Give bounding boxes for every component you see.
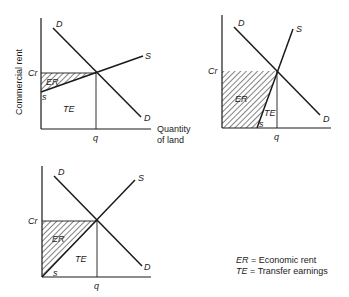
quantity-label: q: [274, 132, 279, 142]
y-axis-label: Commercial rent: [14, 48, 24, 115]
demand-label: D: [144, 262, 151, 272]
economic-rent-area: [222, 71, 277, 128]
price-label: Cr: [208, 66, 218, 76]
economic-rent-diagrams: D D S Cr q s ER TE Commercial rent Quant…: [0, 0, 349, 297]
legend-item-economic-rent: ER = Economic rent: [236, 255, 328, 266]
panel-unit-supply: D D S Cr q s ER TE: [28, 166, 151, 291]
legend-item-transfer-earnings: TE = Transfer earnings: [236, 266, 328, 277]
price-label: Cr: [28, 68, 38, 78]
quantity-label: q: [93, 133, 98, 143]
demand-label: D: [56, 19, 63, 29]
legend: ER = Economic rent TE = Transfer earning…: [236, 255, 328, 277]
supply-start-label: s: [42, 92, 47, 102]
supply-label: S: [138, 173, 144, 183]
transfer-earnings-label: TE: [63, 104, 75, 114]
economic-rent-label: ER: [235, 94, 248, 104]
economic-rent-label: ER: [46, 77, 59, 87]
quantity-label: q: [94, 281, 99, 291]
x-axis-label-line2: of land: [157, 135, 184, 145]
demand-label: D: [238, 18, 245, 28]
demand-label: D: [144, 113, 151, 123]
supply-label: S: [145, 51, 151, 61]
x-axis-label-line1: Quantity: [157, 124, 191, 134]
price-label: Cr: [28, 216, 38, 226]
transfer-earnings-label: TE: [75, 254, 87, 264]
transfer-earnings-label: TE: [264, 108, 276, 118]
supply-start-label: s: [259, 119, 264, 129]
supply-start-label: s: [53, 268, 58, 278]
demand-label: D: [58, 167, 65, 177]
panel-inelastic-supply: D D S Cr q s ER TE: [208, 15, 331, 142]
supply-label: S: [296, 24, 302, 34]
panel-elastic-supply: D D S Cr q s ER TE Commercial rent Quant…: [14, 18, 191, 145]
economic-rent-label: ER: [52, 234, 65, 244]
demand-label: D: [323, 114, 330, 124]
